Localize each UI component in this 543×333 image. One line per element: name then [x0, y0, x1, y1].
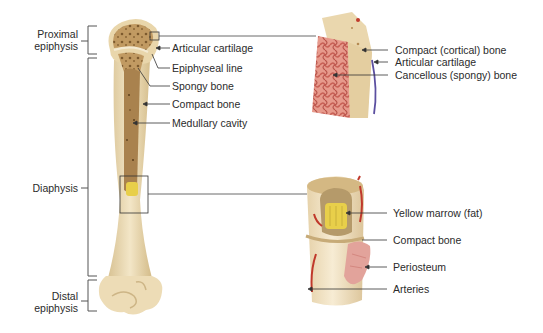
long-bone-diagram: Proximal epiphysis Diaphysis Distal epip…	[0, 0, 543, 333]
label-periosteum: Periosteum	[393, 261, 446, 273]
diaphysis-label: Diaphysis	[8, 182, 78, 194]
label-yellow-marrow: Yellow marrow (fat)	[393, 207, 482, 219]
humerus-bone	[99, 19, 162, 314]
upper-inset-cancellous-block	[312, 12, 376, 118]
lower-inset-shaft-section	[306, 176, 370, 306]
label-epiphyseal-line: Epiphyseal line	[172, 62, 243, 74]
label-articular-cartilage: Articular cartilage	[172, 42, 253, 54]
label-spongy-bone: Spongy bone	[172, 80, 234, 92]
region-brackets	[81, 26, 97, 311]
label-cancellous-spongy-bone: Cancellous (spongy) bone	[395, 69, 517, 81]
label-inset-articular-cartilage: Articular cartilage	[395, 56, 476, 68]
label-arteries: Arteries	[393, 283, 429, 295]
label-compact-cortical-bone: Compact (cortical) bone	[395, 44, 506, 56]
distal-label-line1: Distal	[8, 290, 78, 302]
distal-epiphysis-label: Distal epiphysis	[8, 290, 78, 314]
label-medullary-cavity: Medullary cavity	[172, 117, 247, 129]
label-inset-compact-bone: Compact bone	[393, 234, 461, 246]
proximal-label-line1: Proximal	[8, 28, 78, 40]
distal-label-line2: epiphysis	[8, 302, 78, 314]
proximal-label-line2: epiphysis	[8, 40, 78, 52]
label-compact-bone: Compact bone	[172, 98, 240, 110]
proximal-epiphysis-label: Proximal epiphysis	[8, 28, 78, 52]
